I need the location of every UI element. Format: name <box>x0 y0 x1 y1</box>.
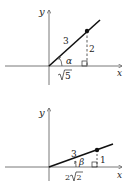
x-axis-label: x <box>117 68 122 78</box>
adjacent-label: 2 2 <box>65 172 83 181</box>
trig-diagrams: y x 3 2 α 5 y x 3 β 1 2 2 <box>0 0 132 181</box>
point-dot <box>85 29 89 33</box>
right-angle-marker <box>92 162 97 167</box>
terminal-side <box>49 20 100 66</box>
hypotenuse-label: 3 <box>63 36 69 46</box>
angle-arc <box>59 57 63 66</box>
adjacent-coefficient: 2 <box>65 173 70 181</box>
diagram-beta: y x 3 β 1 2 2 <box>5 107 122 181</box>
adjacent-radicand: 2 <box>77 173 82 181</box>
angle-arc <box>75 161 76 167</box>
diagram-alpha: y x 3 2 α 5 <box>5 6 122 85</box>
opposite-label: 1 <box>100 155 106 165</box>
point-dot <box>95 148 99 152</box>
opposite-label: 2 <box>89 44 95 54</box>
adjacent-label: 5 <box>58 70 72 81</box>
angle-label: α <box>66 56 72 66</box>
angle-label: β <box>78 157 84 167</box>
adjacent-radicand: 5 <box>65 71 71 81</box>
right-angle-marker <box>82 61 87 66</box>
y-axis-label: y <box>38 107 45 118</box>
hypotenuse-label: 3 <box>71 149 77 159</box>
x-axis-label: x <box>117 170 122 180</box>
y-axis-label: y <box>38 6 45 17</box>
